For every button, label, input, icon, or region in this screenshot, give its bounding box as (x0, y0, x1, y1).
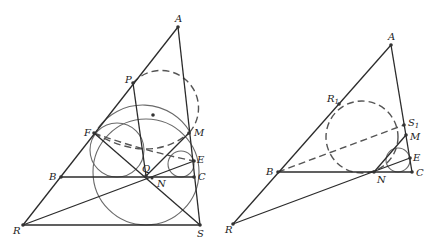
geometry-diagram: A P F M E B Q N C R S A (0, 0, 436, 249)
point-a (176, 25, 180, 29)
label-b: B (48, 171, 56, 182)
point-m-right (404, 133, 408, 137)
line-a-r (23, 27, 178, 225)
line-n-m-right (374, 135, 406, 172)
point-s1 (402, 123, 406, 127)
point-n (151, 177, 154, 180)
label-m-right: M (409, 131, 421, 142)
label-r1: R1 (326, 93, 339, 106)
label-c: C (198, 171, 206, 182)
point-c-right (410, 170, 414, 174)
point-b-right (276, 170, 280, 174)
point-r (21, 223, 25, 227)
point-a-right (389, 43, 393, 47)
point-n-right (372, 170, 376, 174)
label-e-right: E (412, 152, 421, 163)
label-s1: S1 (408, 117, 419, 130)
label-n-right: N (376, 174, 387, 185)
point-b (59, 175, 63, 179)
point-c (192, 175, 196, 179)
point-s (198, 223, 202, 227)
label-f: F (83, 127, 92, 138)
label-q: Q (142, 163, 150, 174)
point-f (92, 131, 96, 135)
line-r-e-right (233, 158, 410, 224)
dashed-circle-r1-s1 (326, 101, 398, 173)
label-n: N (156, 178, 167, 189)
small-circle-near-e (168, 151, 194, 177)
label-a-right: A (387, 31, 395, 42)
dashed-line-b-s1 (278, 125, 404, 172)
line-q-m (146, 133, 189, 176)
point-m (187, 131, 191, 135)
left-figure: A P F M E B Q N C R S (12, 13, 206, 239)
right-figure: A R1 S1 M E B N C R (224, 31, 424, 235)
line-a-r-right (233, 45, 391, 224)
point-q (144, 174, 148, 178)
label-b-right: B (265, 166, 273, 177)
line-a-s (178, 27, 200, 225)
label-r-right: R (224, 224, 233, 235)
point-p (131, 81, 135, 85)
label-m: M (193, 127, 205, 138)
label-e: E (196, 154, 205, 165)
label-r: R (12, 225, 21, 236)
label-c-right: C (416, 167, 424, 178)
point-arc-top (151, 113, 155, 117)
label-p: P (124, 74, 132, 85)
point-e-right (408, 156, 412, 160)
point-e (192, 159, 196, 163)
label-s: S (197, 228, 204, 239)
label-a: A (174, 13, 182, 24)
